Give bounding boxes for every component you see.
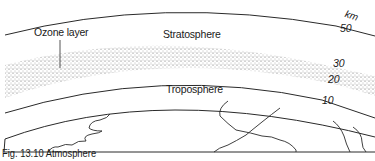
figure-caption: Fig. 13.10 Atmosphere bbox=[2, 147, 96, 159]
earth-surface-line bbox=[4, 110, 375, 152]
atmosphere-diagram bbox=[0, 0, 375, 161]
ozone-layer-label: Ozone layer bbox=[34, 26, 88, 38]
altitude-tick-20: 20 bbox=[328, 73, 340, 85]
continent-outline-center-b bbox=[214, 108, 280, 152]
troposphere-label: Troposphere bbox=[166, 83, 223, 95]
continent-outline-right-a bbox=[333, 121, 350, 152]
continent-outline-center-a bbox=[220, 101, 296, 152]
continent-outline-right-b bbox=[353, 127, 366, 152]
altitude-tick-50: 50 bbox=[340, 22, 352, 34]
altitude-tick-10: 10 bbox=[322, 94, 334, 106]
stratosphere-label: Stratosphere bbox=[163, 28, 221, 40]
altitude-tick-30: 30 bbox=[333, 57, 345, 69]
